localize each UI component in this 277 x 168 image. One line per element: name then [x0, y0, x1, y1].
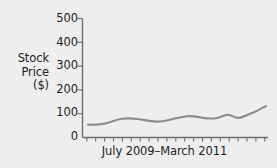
- stock-price-line-chart: Stock Price ($) 500 400 300 200 100 0: [0, 0, 277, 168]
- x-axis: [83, 138, 269, 142]
- x-axis-title: July 2009–March 2011: [62, 144, 267, 158]
- stock-price-line: [88, 106, 266, 125]
- y-axis: [78, 19, 83, 138]
- plot-area: [0, 0, 277, 168]
- x-tick-marks: [87, 138, 265, 142]
